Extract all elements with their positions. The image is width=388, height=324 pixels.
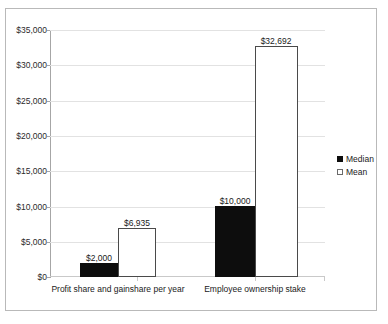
legend-label-median: Median	[346, 154, 374, 164]
bar-value-label-mean-ownership-stake: $32,692	[260, 36, 293, 46]
y-tick-label: $0	[3, 272, 47, 282]
legend-label-mean: Mean	[346, 167, 367, 177]
gridline	[50, 30, 325, 31]
x-tick-mark	[137, 277, 138, 281]
bar-value-label-median-profit-share: $2,000	[85, 253, 113, 263]
y-tick-label: $35,000	[3, 25, 47, 35]
y-axis-tick-labels: $35,000 $30,000 $25,000 $20,000 $15,000 …	[0, 0, 47, 324]
plot-area	[50, 30, 325, 277]
bar-value-label-median-ownership-stake: $10,000	[219, 196, 252, 206]
top-text-artifact	[178, 0, 208, 6]
bar-median-profit-share[interactable]	[80, 263, 118, 277]
legend-item-mean[interactable]: Mean	[337, 165, 381, 178]
chart-legend: Median Mean	[337, 152, 381, 178]
legend-swatch-mean-icon	[337, 169, 343, 175]
bar-mean-ownership-stake[interactable]	[255, 46, 298, 277]
x-tick-mark	[324, 277, 325, 281]
legend-swatch-median-icon	[337, 156, 343, 162]
y-tick-label: $25,000	[3, 96, 47, 106]
x-tick-mark	[255, 277, 256, 281]
x-axis-category-label-profit-share: Profit share and gainshare per year	[51, 284, 184, 294]
bar-mean-profit-share[interactable]	[118, 228, 156, 277]
y-tick-label: $15,000	[3, 166, 47, 176]
y-tick-label: $10,000	[3, 202, 47, 212]
y-tick-label: $30,000	[3, 60, 47, 70]
y-tick-label: $20,000	[3, 131, 47, 141]
x-axis-category-label-ownership-stake: Employee ownership stake	[204, 284, 306, 294]
bar-median-ownership-stake[interactable]	[215, 206, 255, 277]
y-tick-label: $5,000	[3, 237, 47, 247]
bar-value-label-mean-profit-share: $6,935	[123, 218, 151, 228]
legend-item-median[interactable]: Median	[337, 152, 381, 165]
